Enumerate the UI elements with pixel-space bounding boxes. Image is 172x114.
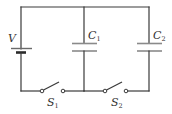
battery-label: V [8,32,17,45]
capacitor-c2-label: C2 [153,29,166,43]
switch-s1-label: S1 [47,96,59,110]
switch-s2-label: S2 [111,96,123,110]
capacitor-c2-icon [137,44,162,52]
circuit-diagram: V S1 C1 S2 C2 [0,0,172,114]
capacitor-c1-icon [72,44,97,52]
switch-s2-icon [103,82,128,93]
battery-icon [11,49,32,53]
capacitor-c1-label: C1 [88,29,101,43]
switch-s1-icon [40,82,65,93]
